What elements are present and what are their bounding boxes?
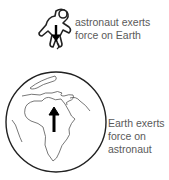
astronaut-icon xyxy=(34,5,74,50)
astronaut-label-line2: force on Earth xyxy=(75,29,150,42)
astronaut-label-line1: astronaut exerts xyxy=(75,16,150,29)
earth-force-label: Earth exerts force on astronaut xyxy=(108,117,165,156)
earth-label-line1: Earth exerts xyxy=(108,117,165,130)
earth-globe-icon xyxy=(2,68,112,178)
earth-label-line3: astronaut xyxy=(108,143,165,156)
astronaut-force-label: astronaut exerts force on Earth xyxy=(75,16,150,42)
earth-label-line2: force on xyxy=(108,130,165,143)
